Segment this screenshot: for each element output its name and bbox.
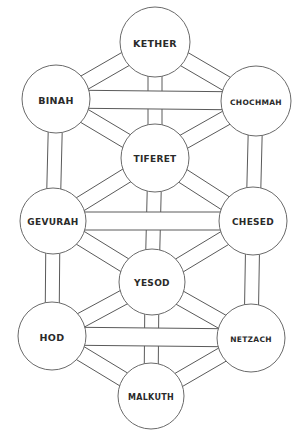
sephira-label: MALKUTH <box>128 393 174 402</box>
sephira-chochmah: CHOCHMAH <box>221 66 291 136</box>
sephira-label: CHOCHMAH <box>230 98 282 107</box>
sephira-label: TIFERET <box>133 154 177 164</box>
sephira-netzach: NETZACH <box>217 304 285 372</box>
sephira-hod: HOD <box>18 302 86 370</box>
sephira-label: GEVURAH <box>27 217 78 227</box>
sephira-gevurah: GEVURAH <box>20 188 86 254</box>
sephira-label: YESOD <box>133 278 170 288</box>
sephira-chesed: CHESED <box>219 187 287 255</box>
sephira-label: NETZACH <box>230 335 272 344</box>
sephira-malkuth: MALKUTH <box>118 363 184 429</box>
sephira-tiferet: TIFERET <box>121 124 189 192</box>
sephira-kether: KETHER <box>120 7 190 77</box>
sephira-label: KETHER <box>133 38 177 49</box>
tree-of-life-diagram: Tree of Life KETHERBINAHCHOCHMAHTIFERETG… <box>0 0 308 446</box>
sephira-label: BINAH <box>38 95 74 106</box>
sephira-binah: BINAH <box>22 65 90 133</box>
sephira-label: HOD <box>40 332 65 343</box>
sephira-label: CHESED <box>232 217 274 227</box>
sephira-yesod: YESOD <box>119 249 185 315</box>
